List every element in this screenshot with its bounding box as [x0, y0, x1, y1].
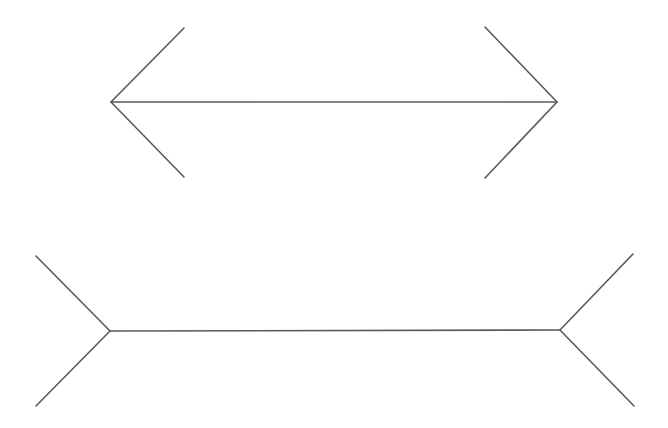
- bottom-left-upper-fin: [36, 256, 110, 331]
- bottom-figure: [36, 254, 634, 406]
- bottom-shaft-line: [110, 330, 560, 331]
- top-left-lower-fin: [111, 102, 184, 177]
- top-right-upper-fin: [485, 27, 557, 102]
- top-right-lower-fin: [485, 102, 557, 178]
- bottom-right-upper-fin: [560, 254, 633, 330]
- diagram-canvas: [0, 0, 668, 428]
- bottom-left-lower-fin: [36, 331, 110, 406]
- top-figure: [111, 27, 557, 178]
- bottom-right-lower-fin: [560, 330, 634, 406]
- top-left-upper-fin: [111, 28, 184, 102]
- muller-lyer-diagram: [0, 0, 668, 428]
